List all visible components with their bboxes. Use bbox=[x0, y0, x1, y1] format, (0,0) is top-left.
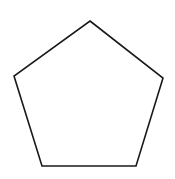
pentagon-diagram bbox=[0, 0, 175, 179]
pentagon-shape bbox=[14, 21, 163, 166]
diagram-canvas bbox=[0, 0, 175, 179]
